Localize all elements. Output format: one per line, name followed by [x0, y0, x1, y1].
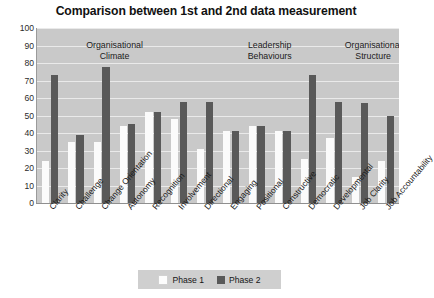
legend-item[interactable]: Phase 2 [217, 275, 261, 285]
y-tick-label-80: 80 [4, 58, 34, 68]
bar [335, 102, 342, 204]
y-tick-label-100: 100 [4, 23, 34, 33]
group-annotation: Leadership Behaviours [220, 40, 320, 63]
legend-swatch [158, 275, 168, 285]
y-tick-label-30: 30 [4, 146, 34, 156]
legend-item[interactable]: Phase 1 [158, 275, 204, 285]
legend-label: Phase 1 [172, 275, 204, 285]
x-axis-category-labels: ClarityChallengeChange OrientationAutono… [0, 205, 412, 277]
group-annotation: Organisational Structure [323, 40, 399, 63]
bar [387, 116, 394, 204]
bar [154, 112, 161, 203]
legend-label: Phase 2 [229, 275, 261, 285]
bar [42, 161, 49, 203]
bar [361, 103, 368, 203]
y-tick-label-90: 90 [4, 41, 34, 51]
legend-swatch [217, 276, 225, 284]
y-tick-label-50: 50 [4, 111, 34, 121]
y-tick-label-40: 40 [4, 128, 34, 138]
y-tick-label-10: 10 [4, 181, 34, 191]
group-annotation: Organisational Climate [65, 40, 165, 63]
y-tick-label-70: 70 [4, 76, 34, 86]
bar [180, 102, 187, 204]
y-tick-label-60: 60 [4, 93, 34, 103]
chart-legend: Phase 1Phase 2 [138, 270, 281, 289]
bar [51, 75, 58, 203]
bar-group [37, 28, 63, 203]
y-tick-label-20: 20 [4, 163, 34, 173]
bar [206, 102, 213, 204]
y-axis-tick-labels: 0102030405060708090100 [0, 28, 34, 203]
chart-title: Comparison between 1st and 2nd data meas… [0, 4, 412, 18]
plot-area: Organisational ClimateLeadership Behavio… [37, 28, 399, 203]
